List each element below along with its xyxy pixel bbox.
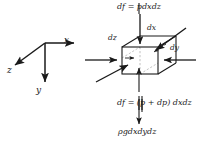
equation-top-pressure-force: df = pdxdz	[117, 3, 161, 11]
cube-edge-top-left-depth	[122, 36, 140, 47]
axis-label-y: y	[36, 86, 41, 95]
diagram-vector-canvas	[0, 0, 213, 147]
cube-hidden-edge-left	[122, 47, 140, 58]
axis-label-z: z	[7, 66, 12, 75]
coordinate-axes	[15, 43, 74, 82]
cube-edge-right-depth	[158, 63, 176, 74]
axis-z-line	[15, 43, 45, 65]
cube-hidden-edges	[122, 47, 158, 74]
axis-label-x: x	[64, 36, 69, 45]
equation-weight-force: ρgdxdydz	[118, 128, 156, 136]
cube-dimension-label-dx: dx	[147, 24, 156, 32]
cube-hidden-edge-bottom	[140, 63, 158, 74]
cube-dimension-label-dz: dz	[108, 34, 117, 42]
equation-bottom-pressure-force: df = (p + dp) dxdz	[117, 99, 192, 107]
pressure-element-diagram: x y z dx dz dy df = pdxdz df = (p + dp) …	[0, 0, 213, 147]
cube-dimension-label-dy: dy	[170, 44, 179, 52]
